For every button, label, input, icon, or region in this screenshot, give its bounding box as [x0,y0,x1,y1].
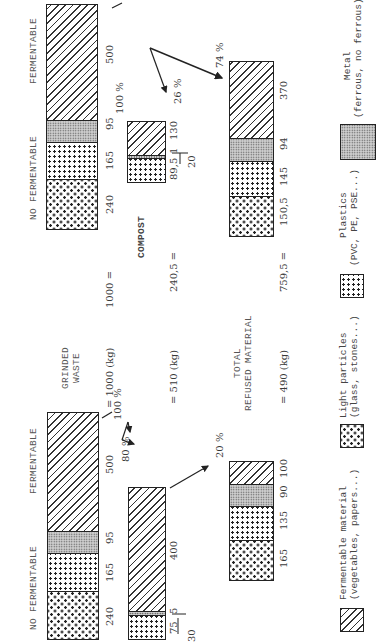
legend-fermentable-text: Fermentable material (vegetables, papers… [338,469,360,600]
legend-light-particles-examples: (glass, stones...) [349,315,360,418]
waste-sorting-diagram: NO FERMENTABLE FERMENTABLE 240 165 95 50… [0,0,387,644]
flow-arrows [0,0,387,644]
legend-plastics-text: Plastics (PVC, PE, PSE...) [338,169,360,266]
legend-plastics-examples: (PVC, PE, PSE...) [349,169,360,266]
legend-fermentable-examples: (vegetables, papers...) [349,469,360,600]
legend-fermentable-label: Fermentable material [338,469,349,600]
legend-plastics-swatch [340,274,364,298]
legend-metal-text: Metal (ferrous, no ferrous) [342,0,364,118]
legend-metal-label: Metal [342,0,353,118]
legend-metal-examples: (ferrous, no ferrous) [353,0,364,118]
legend-light-particles-text: Light particles (glass, stones...) [338,315,360,418]
legend-metal-swatch [340,124,376,160]
legend-fermentable-swatch [340,608,364,632]
legend-plastics-label: Plastics [338,169,349,266]
legend-light-particles-label: Light particles [338,315,349,418]
legend-light-particles-swatch [340,424,364,448]
